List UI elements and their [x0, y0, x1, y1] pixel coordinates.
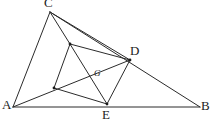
segment-C-D — [50, 12, 130, 60]
vertex-label-c: C — [44, 0, 53, 9]
vertex-label-a: A — [2, 98, 11, 111]
vertex-label-b: B — [201, 99, 210, 112]
vertex-label-e: E — [102, 108, 110, 121]
node-H — [53, 87, 56, 90]
segment-C-B — [50, 12, 200, 107]
node-F — [69, 43, 72, 46]
vertex-label-g: G — [94, 69, 101, 78]
segment-E-D — [107, 60, 130, 104]
vertex-label-d: D — [130, 44, 139, 57]
segment-A-D — [13, 60, 130, 107]
geometry-figure: ABCDEG — [0, 0, 214, 122]
edge-group — [13, 12, 200, 107]
figure-canvas — [0, 0, 214, 122]
segment-F-H — [54, 44, 70, 88]
segment-F-D — [70, 44, 130, 60]
segment-A-C — [13, 12, 50, 107]
node-D — [129, 59, 132, 62]
node-group — [53, 43, 132, 106]
node-E — [106, 103, 109, 106]
segment-C-F — [50, 12, 70, 44]
